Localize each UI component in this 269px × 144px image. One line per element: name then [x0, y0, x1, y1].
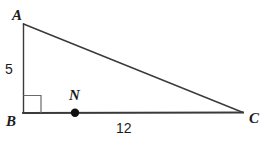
point-n-dot	[71, 109, 79, 117]
vertex-label-b: B	[5, 113, 16, 129]
segment-bc	[23, 113, 243, 114]
vertex-label-c: C	[249, 110, 260, 126]
triangle-diagram-svg: A B C N 5 12	[0, 0, 269, 144]
length-label-bc: 12	[116, 120, 132, 136]
geometry-figure: A B C N 5 12	[0, 0, 269, 144]
point-label-n: N	[68, 87, 81, 103]
length-label-ab: 5	[5, 61, 13, 77]
vertex-label-a: A	[11, 7, 22, 23]
segment-ac	[24, 24, 244, 113]
right-angle-marker	[24, 96, 42, 114]
